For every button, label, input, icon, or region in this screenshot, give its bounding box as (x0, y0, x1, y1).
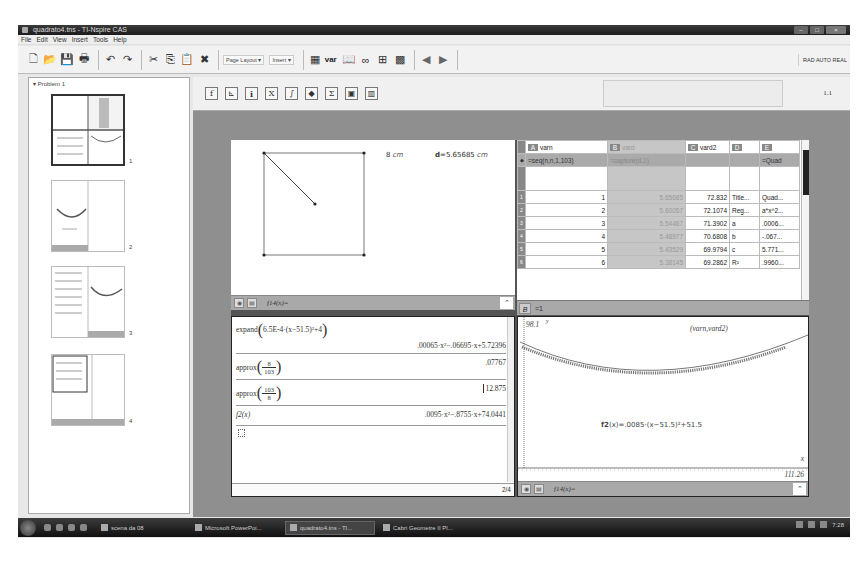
calc-entry-input[interactable] (238, 429, 245, 437)
quicklaunch-icon[interactable] (68, 524, 75, 531)
start-button[interactable] (20, 520, 36, 536)
cell[interactable]: 5.65685 (608, 191, 686, 204)
previous-page-icon[interactable]: ◀ (419, 53, 433, 67)
cell[interactable]: 5.54467 (608, 217, 686, 230)
minimize-button[interactable]: – (794, 26, 808, 34)
calc-history-entry[interactable]: approx( 8103 ) .07767 (236, 354, 506, 380)
cell[interactable]: .9960... (760, 256, 800, 269)
volume-icon[interactable] (820, 521, 827, 528)
cell[interactable]: 72.832 (686, 191, 730, 204)
library-book-icon[interactable]: 📖 (342, 53, 356, 67)
graph-tool-icon[interactable]: ⊾ (225, 87, 238, 100)
cell[interactable]: c (730, 243, 760, 256)
info-icon[interactable]: i (245, 87, 258, 100)
catalog-icon[interactable]: ▩ (393, 53, 407, 67)
formula-cell-E[interactable]: =Quad (760, 154, 800, 167)
page-thumbnail-3[interactable] (51, 266, 125, 338)
function-entry-input[interactable]: f14(x)= (554, 485, 575, 493)
taskbar-item[interactable]: scena da 08 (97, 521, 187, 535)
cell[interactable]: 5.38145 (608, 256, 686, 269)
integral-icon[interactable]: ∫ (285, 87, 298, 100)
page-thumbnail-2[interactable] (51, 180, 125, 252)
page-layout-dropdown[interactable]: Page Layout ▾ (223, 55, 264, 65)
templates-icon[interactable]: ▥ (365, 87, 378, 100)
menu-insert[interactable]: Insert (72, 35, 88, 44)
cell[interactable]: 71.3902 (686, 217, 730, 230)
cell[interactable]: 4 (526, 230, 608, 243)
cell[interactable]: a*x^2... (760, 204, 800, 217)
problem-header[interactable]: ▾ Problem 1 (29, 78, 189, 89)
paste-icon[interactable]: 📋 (180, 53, 194, 67)
cell[interactable]: 70.6808 (686, 230, 730, 243)
quicklaunch-icon[interactable] (80, 524, 87, 531)
next-page-icon[interactable]: ▶ (436, 53, 450, 67)
calculator-icon[interactable]: ▦ (308, 53, 322, 67)
formula-cell-D[interactable] (730, 154, 760, 167)
spreadsheet-pane[interactable]: Avarn Bvard Cvard2 D E ◆ =seq(n,n,1,103)… (517, 140, 809, 300)
cell[interactable]: Reg... (730, 204, 760, 217)
close-button[interactable]: × (826, 26, 846, 34)
insert-dropdown[interactable]: Insert ▾ (269, 55, 293, 65)
cell[interactable]: Title... (730, 191, 760, 204)
clock[interactable]: 7:28 (832, 522, 844, 528)
formula-cell-B[interactable]: =capture(d,1) (608, 154, 686, 167)
taskbar-item[interactable]: Cabri Geometre II Pl... (379, 521, 469, 535)
cell[interactable]: 5.771... (760, 243, 800, 256)
taskbar-item-active[interactable]: quadrato4.tns - TI... (285, 521, 375, 535)
eye-icon[interactable]: ◉ (234, 298, 244, 308)
calc-history-entry[interactable]: approx( 1038 ) 12.875 (236, 380, 506, 406)
expand-history-icon[interactable]: ⌃ (500, 297, 513, 309)
cell[interactable]: 5.60057 (608, 204, 686, 217)
menu-file[interactable]: File (21, 35, 31, 44)
column-header-A[interactable]: Avarn (526, 141, 608, 154)
page-thumbnail-1[interactable] (51, 94, 125, 166)
geometry-canvas[interactable] (231, 140, 515, 295)
formula-cell-A[interactable]: =seq(n,n,1,103) (526, 154, 608, 167)
cell[interactable]: Quad... (760, 191, 800, 204)
cell[interactable]: 1 (526, 191, 608, 204)
cell[interactable]: 5.43529 (608, 243, 686, 256)
formula-cell-C[interactable] (686, 154, 730, 167)
catalog-grid-icon[interactable]: ▣ (345, 87, 358, 100)
math-templates-icon[interactable]: ⊞ (376, 53, 390, 67)
cell[interactable]: 3 (526, 217, 608, 230)
cell[interactable]: 72.1074 (686, 204, 730, 217)
var-button[interactable]: var (325, 55, 337, 64)
table-toggle-icon[interactable]: ▤ (247, 298, 257, 308)
cell[interactable]: 2 (526, 204, 608, 217)
delete-icon[interactable]: ✖ (197, 53, 211, 67)
column-header-E[interactable]: E (760, 141, 800, 154)
quicklaunch-icon[interactable] (56, 524, 63, 531)
calculator-pane[interactable]: expand(6.5E-4·(x−51.5)²+4) .00065·x²−.06… (231, 316, 515, 497)
column-header-B[interactable]: Bvard (608, 141, 686, 154)
column-header-C[interactable]: Cvard2 (686, 141, 730, 154)
menu-help[interactable]: Help (113, 35, 126, 44)
maximize-button[interactable]: □ (810, 26, 824, 34)
palette-icon[interactable]: ◆ (305, 87, 318, 100)
calc-history-entry[interactable]: f2(x) .0095·x²−.8755·x+74.0441 (236, 406, 506, 426)
copy-icon[interactable]: ⎘ (163, 53, 177, 67)
function-entry-input[interactable]: f14(x)= (267, 299, 288, 307)
cell[interactable]: 5.48977 (608, 230, 686, 243)
cell[interactable]: .0006... (760, 217, 800, 230)
graph-canvas[interactable] (518, 317, 808, 482)
redo-icon[interactable]: ↷ (120, 53, 134, 67)
cell[interactable]: 6 (526, 256, 608, 269)
cell[interactable]: R² (730, 256, 760, 269)
menu-view[interactable]: View (53, 35, 67, 44)
menu-tools[interactable]: Tools (93, 35, 108, 44)
open-folder-icon[interactable]: 📂 (43, 53, 57, 67)
undo-icon[interactable]: ↶ (103, 53, 117, 67)
cell[interactable]: b (730, 230, 760, 243)
expand-history-icon[interactable]: ⌃ (793, 483, 806, 495)
x-squared-icon[interactable]: X (265, 87, 278, 100)
scrollbar-thumb[interactable] (803, 150, 809, 195)
tray-icon[interactable] (796, 521, 803, 528)
function-icon[interactable]: f (205, 87, 218, 100)
taskbar-item[interactable]: Microsoft PowerPoi... (191, 521, 281, 535)
function-label[interactable]: f2(x)=.0085·(x−51.5)²+51.5 (601, 421, 702, 429)
geometry-pane[interactable]: 8 cm d=5.65685 cm (231, 140, 515, 295)
calculator-scrollbar[interactable] (507, 317, 514, 482)
cell[interactable]: 69.9794 (686, 243, 730, 256)
quicklaunch-icon[interactable] (44, 524, 51, 531)
